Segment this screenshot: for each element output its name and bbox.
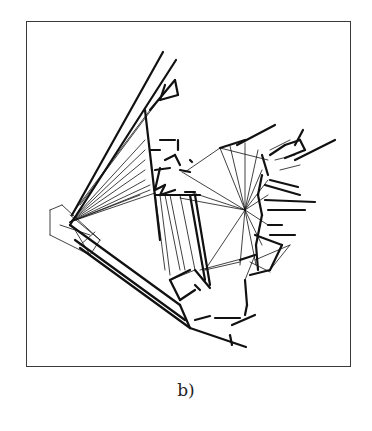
line-segment: [240, 255, 255, 260]
line-segment: [237, 125, 275, 145]
line-segment: [170, 270, 190, 280]
line-segment: [240, 210, 245, 265]
line-segment: [255, 245, 290, 260]
line-segment: [70, 170, 145, 222]
line-segment: [170, 280, 180, 300]
line-segment: [70, 60, 176, 225]
line-segment: [230, 335, 232, 345]
line-segment: [205, 210, 245, 270]
line-segment: [190, 160, 192, 162]
figure: b): [0, 0, 372, 431]
line-segment: [70, 160, 145, 222]
line-segment: [180, 290, 195, 300]
line-segment: [262, 155, 268, 175]
line-segment: [190, 328, 246, 347]
line-segment: [255, 235, 282, 245]
line-segment: [250, 270, 270, 275]
line-segment: [165, 155, 175, 160]
map-drawing: [0, 0, 372, 431]
line-segment: [300, 140, 305, 150]
line-segment: [258, 195, 262, 215]
line-segment: [245, 305, 247, 315]
line-segment: [265, 200, 315, 202]
line-segment: [70, 225, 180, 305]
line-segment: [245, 280, 247, 305]
line-segment: [195, 316, 210, 320]
line-segment: [50, 205, 62, 210]
line-segment: [180, 170, 190, 172]
line-segment: [160, 195, 170, 275]
line-segment: [70, 185, 150, 222]
line-segment: [232, 315, 255, 325]
line-segment: [280, 165, 300, 170]
line-segment: [75, 240, 185, 320]
line-segment: [270, 180, 298, 187]
line-segment: [205, 262, 240, 270]
line-segment: [220, 148, 268, 160]
figure-caption: b): [0, 380, 372, 400]
line-segment: [256, 245, 258, 270]
line-segment: [175, 80, 178, 95]
line-segment: [175, 155, 180, 165]
line-segment: [155, 168, 170, 170]
